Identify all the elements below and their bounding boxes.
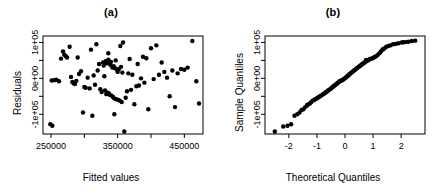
figure-root: (a) Residuals Fitted values 250000350000… [0,0,444,195]
data-point [132,102,136,106]
y-tick-label: -1e+05 [252,100,262,128]
data-point [95,68,99,72]
data-points [273,38,418,133]
data-point [139,76,143,80]
data-point [364,58,368,62]
data-point [85,75,89,79]
data-point [75,55,79,59]
data-point [125,89,129,93]
plot-frame [43,36,203,134]
panel-b-plot-area: -2-1012-1e+050e+001e+05 [222,0,444,195]
data-point [126,71,130,75]
x-tick-label: 350000 [103,141,133,151]
data-point [305,103,309,107]
data-point [87,86,91,90]
data-point [127,57,131,61]
data-point [121,40,125,44]
panel-a-plot-area: 250000350000450000-1e+050e+001e+05 [0,0,222,195]
data-point [185,65,189,69]
data-point [59,56,63,60]
data-point [130,73,134,77]
data-point [170,68,174,72]
data-point [146,107,150,111]
data-point [381,47,385,51]
data-point [106,51,110,55]
data-points [48,39,201,134]
data-point [173,105,177,109]
data-point [162,70,166,74]
data-point [57,79,61,83]
data-point [120,70,124,74]
data-point [102,74,106,78]
data-point [67,45,71,49]
data-point [112,112,116,116]
data-point [83,85,87,89]
x-tick-label: 2 [399,141,404,151]
panel-b: (b) Theoretical Quantiles -2-1012-1e+050… [222,0,444,195]
data-point [144,56,148,60]
data-point [94,42,98,46]
x-tick-label: 450000 [169,141,199,151]
data-point [175,71,179,75]
data-point [113,58,117,62]
panel-a: (a) Residuals Fitted values 250000350000… [0,0,222,195]
data-point [93,83,97,87]
plot-frame [265,36,425,134]
data-point [129,88,133,92]
data-point [118,44,122,48]
data-point [81,110,85,114]
y-tick-label: 0e+00 [30,66,40,91]
x-tick-label: -2 [285,141,293,151]
data-point [165,75,169,79]
panel-b-y-axis-title: Sample Quantiles [234,53,245,132]
data-point [91,73,95,77]
data-point [69,75,73,79]
data-point [74,79,78,83]
data-point [142,80,146,84]
data-point [167,94,171,98]
x-tick-label: -1 [313,141,321,151]
data-point [65,55,69,59]
data-point [157,73,161,77]
data-point [90,113,94,117]
data-point [194,79,198,83]
data-point [97,62,101,66]
data-point [281,124,285,128]
data-point [119,65,123,69]
x-tick-label: 250000 [36,141,66,151]
y-tick-label: 1e+05 [252,30,262,55]
data-point [135,62,139,66]
data-point [122,129,126,133]
data-point [154,43,158,47]
data-point [413,38,417,42]
data-point [89,47,93,51]
data-point [123,96,127,100]
x-tick-label: 1 [371,141,376,151]
data-point [119,100,123,104]
data-point [197,101,201,105]
y-tick-label: 0e+00 [252,66,262,91]
data-point [151,77,155,81]
data-point [137,83,141,87]
data-point [79,69,83,73]
data-point [273,129,277,133]
y-tick-label: 1e+05 [30,30,40,55]
data-point [289,122,293,126]
data-point [190,39,194,43]
data-point [109,60,113,64]
data-point [50,124,54,128]
data-point [149,46,153,50]
data-point [159,60,163,64]
y-tick-label: -1e+05 [30,100,40,128]
x-tick-label: 0 [342,141,347,151]
